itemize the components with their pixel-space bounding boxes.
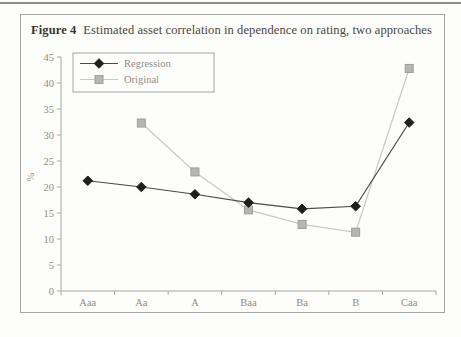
chart: 051015202530354045% AaaAaABaaBaBCaa Regr… [21,15,444,312]
y-axis-title: % [25,172,36,181]
diamond-marker [190,189,200,199]
y-tick-label: 5 [49,260,54,271]
y-axis: 051015202530354045% [25,52,61,297]
square-marker [352,228,360,236]
y-tick-label: 20 [44,182,55,193]
y-tick-label: 30 [44,130,55,141]
x-axis: AaaAaABaaBaBCaa [61,291,436,308]
x-tick-label: A [191,297,199,308]
diamond-marker [137,182,147,192]
square-marker [137,119,145,127]
figure-label: Figure 4 [31,23,76,37]
x-tick-label: Baa [240,297,257,308]
figure-title: Figure 4Estimated asset correlation in d… [31,23,436,38]
figure-box: Figure 4Estimated asset correlation in d… [20,14,445,313]
diamond-marker [297,204,307,214]
diamond-marker [351,201,361,211]
x-tick-label: Ba [296,297,308,308]
legend-label: Original [124,74,159,85]
series-line [88,123,409,209]
series-regression [83,118,414,214]
legend: RegressionOriginal [73,53,214,92]
y-tick-label: 0 [49,286,54,297]
page-top-rule [0,2,461,4]
y-tick-label: 35 [44,104,55,115]
y-tick-label: 40 [44,78,55,89]
x-tick-label: Aa [135,297,148,308]
x-tick-label: Caa [401,297,418,308]
diamond-marker [83,176,93,186]
series-line [141,68,409,232]
x-tick-label: Aaa [79,297,96,308]
square-marker [405,64,413,72]
y-tick-label: 25 [44,156,55,167]
diamond-marker [404,118,414,128]
page: { "figure": { "label": "Figure 4", "titl… [0,0,461,337]
y-tick-label: 10 [44,234,55,245]
y-tick-label: 15 [44,208,55,219]
figure-title-text: Estimated asset correlation in dependenc… [83,23,432,37]
y-tick-label: 45 [44,52,55,63]
legend-label: Regression [124,58,171,69]
square-marker [191,168,199,176]
x-tick-label: B [352,297,359,308]
square-marker [298,220,306,228]
square-marker [95,76,103,84]
